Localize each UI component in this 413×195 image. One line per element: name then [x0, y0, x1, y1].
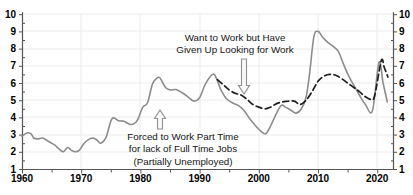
svg-text:1970: 1970	[70, 173, 93, 184]
svg-text:9: 9	[399, 26, 405, 37]
svg-text:1: 1	[399, 164, 405, 175]
svg-text:10: 10	[5, 9, 17, 20]
svg-text:4: 4	[10, 112, 16, 123]
svg-text:10: 10	[399, 9, 411, 20]
down-arrow-icon	[239, 59, 250, 94]
svg-text:1980: 1980	[129, 173, 152, 184]
svg-text:9: 9	[10, 26, 16, 37]
svg-text:7: 7	[10, 60, 16, 71]
svg-text:2000: 2000	[248, 173, 271, 184]
svg-text:8: 8	[399, 43, 405, 54]
x-axis-labels: 1960197019801990200020102020	[11, 173, 389, 184]
line-chart-figure: 1122334455667788991010196019701980199020…	[0, 0, 413, 195]
annotation-text-line: for lack of Full Time Jobs	[127, 143, 238, 155]
svg-text:3: 3	[399, 129, 405, 140]
svg-text:6: 6	[399, 78, 405, 89]
svg-text:2020: 2020	[366, 173, 389, 184]
svg-text:5: 5	[10, 95, 16, 106]
svg-text:5: 5	[399, 95, 405, 106]
annotation-text-line: Forced to Work Part Time	[127, 131, 238, 143]
annotation-text-line: Want to Work but Have	[176, 32, 293, 44]
svg-text:2: 2	[399, 146, 405, 157]
up-arrow-icon	[155, 110, 166, 129]
svg-text:7: 7	[399, 60, 405, 71]
svg-text:1960: 1960	[11, 173, 34, 184]
svg-text:2: 2	[10, 146, 16, 157]
svg-text:1990: 1990	[188, 173, 211, 184]
svg-text:3: 3	[10, 129, 16, 140]
annotation-given-up-looking: Want to Work but Have Given Up Looking f…	[176, 32, 293, 57]
svg-text:6: 6	[10, 78, 16, 89]
svg-text:8: 8	[10, 43, 16, 54]
annotation-text-line: Given Up Looking for Work	[176, 44, 293, 56]
annotation-text-line: (Partially Unemployed)	[127, 156, 238, 168]
annotation-partially-unemployed: Forced to Work Part Time for lack of Ful…	[127, 131, 238, 168]
svg-text:2010: 2010	[307, 173, 330, 184]
svg-text:4: 4	[399, 112, 405, 123]
